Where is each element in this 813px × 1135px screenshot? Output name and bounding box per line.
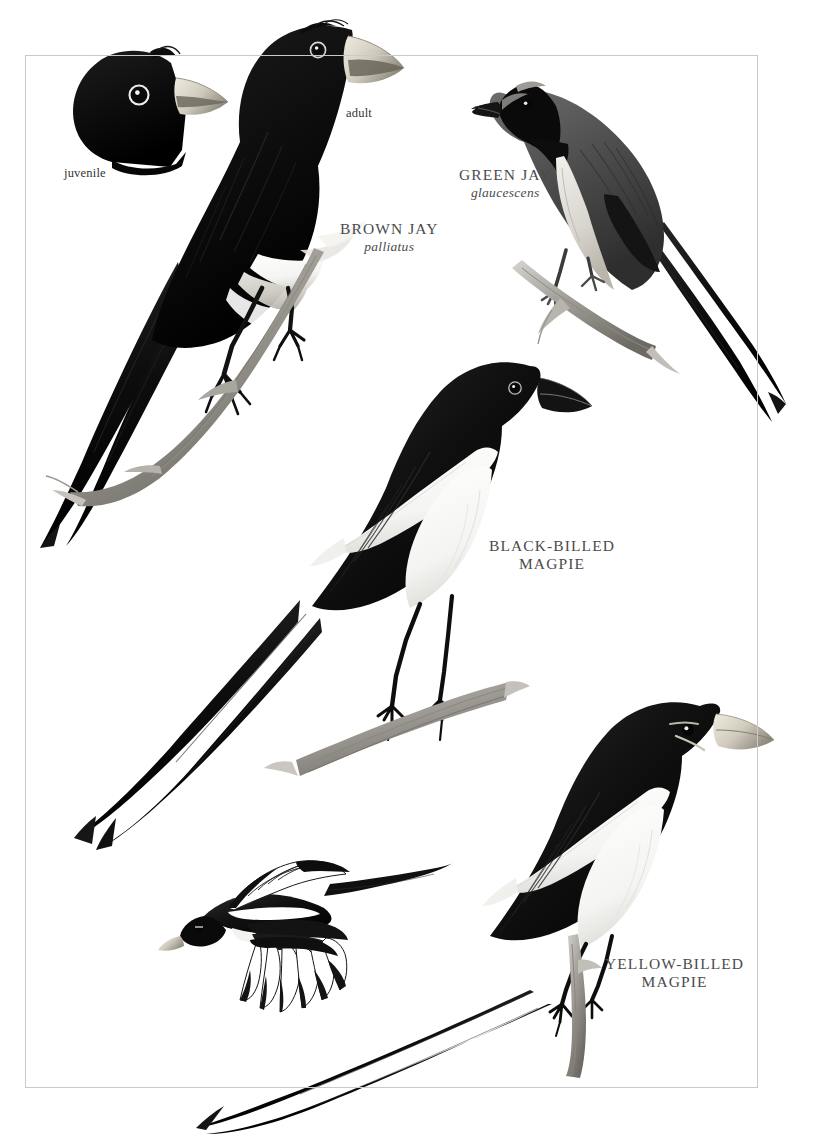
caption-black-billed-magpie-common: BLACK-BILLED MAGPIE — [489, 537, 615, 574]
caption-green-jay-scientific: glaucescens — [459, 185, 551, 201]
caption-juvenile: juvenile — [64, 166, 106, 181]
branch-black-billed-magpie — [264, 681, 530, 776]
figure-yellow-billed-magpie-flight — [158, 860, 454, 1012]
caption-green-jay: GREEN JAY glaucescens — [459, 166, 551, 201]
caption-brown-jay: BROWN JAY palliatus — [340, 220, 438, 255]
caption-yellow-billed-magpie: YELLOW-BILLED MAGPIE — [605, 955, 744, 992]
caption-adult: adult — [346, 106, 372, 121]
caption-black-billed-magpie: BLACK-BILLED MAGPIE — [489, 537, 615, 574]
figure-brown-jay-juvenile-head — [73, 47, 228, 176]
figure-black-billed-magpie — [74, 362, 592, 850]
illustration-plate: juvenile adult BROWN JAY palliatus GREEN… — [0, 0, 813, 1135]
caption-brown-jay-common: BROWN JAY — [340, 220, 438, 238]
caption-yellow-billed-magpie-common: YELLOW-BILLED MAGPIE — [605, 955, 744, 992]
caption-brown-jay-scientific: palliatus — [340, 239, 438, 255]
caption-green-jay-common: GREEN JAY — [459, 166, 551, 184]
